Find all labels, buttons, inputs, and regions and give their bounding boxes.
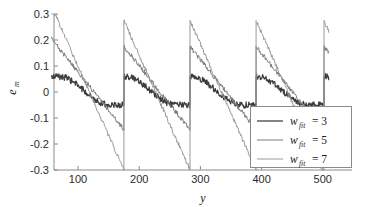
y-tick-label: -0.2 [30, 138, 49, 150]
chart-figure: 100200300400500-0.3-0.2-0.100.10.20.3 y … [0, 0, 371, 207]
legend-label-base: w [290, 153, 298, 165]
x-axis-title-text: y [199, 191, 206, 205]
y-axis-title-subscript: m [12, 81, 21, 87]
x-tick-label: 300 [191, 173, 209, 185]
x-tick-label: 200 [130, 173, 148, 185]
legend-label-subscript: fit [299, 140, 306, 149]
y-tick-label: -0.3 [30, 164, 49, 176]
legend-label-subscript: fit [299, 121, 306, 130]
x-axis-title: y [199, 191, 206, 205]
chart-legend[interactable]: wfit= 3wfit= 5wfit= 7 [251, 107, 352, 169]
legend-label-subscript: fit [299, 159, 306, 168]
legend-label-base: w [290, 134, 298, 146]
legend-label-base: w [290, 115, 298, 127]
chart-canvas: 100200300400500-0.3-0.2-0.100.10.20.3 y … [0, 0, 371, 207]
legend-label-value: = 7 [312, 153, 327, 165]
y-axis-title-text: e [5, 89, 19, 95]
x-tick-label: 400 [252, 173, 270, 185]
y-tick-label: -0.1 [30, 112, 49, 124]
legend-label-value: = 3 [312, 115, 327, 127]
y-tick-label: 0.2 [34, 34, 49, 46]
x-tick-label: 100 [69, 173, 87, 185]
x-tick-label: 500 [314, 173, 332, 185]
y-tick-label: 0 [43, 86, 49, 98]
y-tick-label: 0.3 [34, 8, 49, 20]
y-tick-label: 0.1 [34, 60, 49, 72]
legend-label-value: = 5 [312, 134, 327, 146]
